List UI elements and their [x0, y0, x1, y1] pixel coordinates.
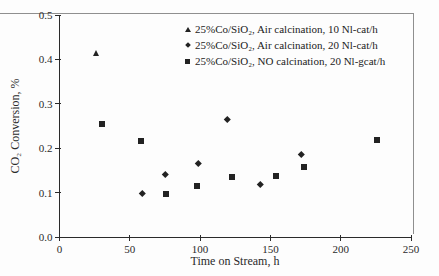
diamond-data-point	[139, 190, 145, 196]
x-axis-tick	[411, 235, 412, 241]
legend-marker-cell	[180, 43, 195, 47]
triangle-data-point	[93, 50, 99, 56]
legend-marker-cell	[180, 27, 195, 32]
diamond-data-point	[224, 116, 230, 122]
y-axis-tick	[55, 237, 61, 238]
x-axis-tick	[340, 235, 341, 241]
figure-border-right	[413, 13, 414, 234]
square-data-point	[374, 137, 380, 143]
legend: 25%Co/SiO₂, Air calcination, 10 Nl-cat/h…	[180, 21, 385, 69]
diamond-data-point	[162, 171, 168, 177]
y-axis-tick-label: 0.1	[27, 187, 53, 199]
diamond-data-point	[195, 160, 201, 166]
square-marker-icon	[185, 59, 190, 64]
x-axis-tick	[270, 235, 271, 241]
legend-marker-cell	[180, 59, 195, 64]
diamond-data-point	[257, 181, 263, 187]
square-data-point	[163, 191, 169, 197]
square-data-point	[229, 174, 235, 180]
figure-border-top	[0, 13, 414, 14]
y-axis-tick-label: 0.4	[27, 53, 53, 65]
legend-item-air-20: 25%Co/SiO₂, Air calcination, 20 Nl-cat/h	[180, 37, 385, 53]
square-data-point	[99, 121, 105, 127]
square-data-point	[301, 164, 307, 170]
y-axis-tick	[55, 192, 61, 193]
y-axis-tick	[55, 148, 61, 149]
y-axis-line	[59, 15, 60, 238]
scatter-chart-figure: 0501001502002500.00.10.20.30.40.5 Time o…	[0, 0, 439, 276]
legend-item-no-20: 25%Co/SiO₂, NO calcination, 20 Nl-gcat/h	[180, 53, 385, 69]
legend-item-air-10: 25%Co/SiO₂, Air calcination, 10 Nl-cat/h	[180, 21, 385, 37]
x-axis-tick	[200, 235, 201, 241]
diamond-marker-icon	[185, 42, 191, 48]
x-axis-tick-label: 0	[43, 243, 77, 255]
triangle-marker-icon	[185, 27, 191, 32]
y-axis-tick	[55, 59, 61, 60]
y-axis-tick-label: 0.5	[27, 9, 53, 21]
x-axis-tick-label: 250	[394, 243, 428, 255]
legend-label: 25%Co/SiO₂, NO calcination, 20 Nl-gcat/h	[195, 55, 385, 68]
diamond-data-point	[298, 151, 304, 157]
y-axis-tick	[55, 15, 61, 16]
square-data-point	[194, 183, 200, 189]
legend-label: 25%Co/SiO₂, Air calcination, 20 Nl-cat/h	[195, 39, 378, 52]
legend-label: 25%Co/SiO₂, Air calcination, 10 Nl-cat/h	[195, 23, 378, 36]
square-data-point	[138, 138, 144, 144]
x-axis-tick	[129, 235, 130, 241]
y-axis-tick-label: 0.2	[27, 142, 53, 154]
y-axis-tick-label: 0.3	[27, 98, 53, 110]
x-axis-title: Time on Stream, h	[135, 254, 335, 269]
y-axis-tick-label: 0.0	[27, 231, 53, 243]
y-axis-tick	[55, 103, 61, 104]
y-axis-title: CO₂ Conversion, %	[8, 26, 22, 226]
x-axis-line	[59, 237, 412, 238]
square-data-point	[273, 173, 279, 179]
